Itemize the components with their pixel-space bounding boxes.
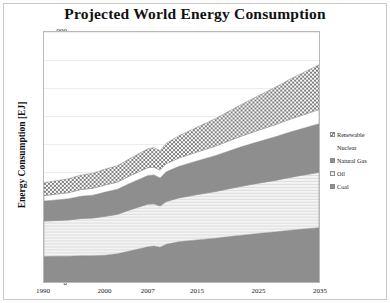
legend-label: Nuclear xyxy=(337,144,357,151)
legend-item-coal[interactable]: Coal xyxy=(330,180,386,193)
x-tick-label: 2000 xyxy=(83,287,127,295)
legend-swatch-icon xyxy=(330,132,335,137)
legend-item-renewable[interactable]: Renewable xyxy=(330,128,386,141)
chart-figure: Projected World Energy Consumption Energ… xyxy=(0,0,390,303)
x-tick-label: 1990 xyxy=(21,287,65,295)
legend-label: Oil xyxy=(337,170,345,177)
legend-item-nuclear[interactable]: Nuclear xyxy=(330,141,386,154)
stacked-area-series xyxy=(44,32,319,282)
legend-label: Renewable xyxy=(337,131,365,138)
chart-title: Projected World Energy Consumption xyxy=(0,5,390,23)
chart-legend: RenewableNuclearNatural GasOilCoal xyxy=(330,128,386,193)
legend-item-oil[interactable]: Oil xyxy=(330,167,386,180)
x-tick-label: 2025 xyxy=(236,287,280,295)
plot-area xyxy=(43,31,320,283)
legend-swatch-icon xyxy=(330,184,335,189)
legend-swatch-icon xyxy=(330,171,335,176)
x-tick-label: 2007 xyxy=(126,287,170,295)
legend-label: Coal xyxy=(337,183,349,190)
legend-label: Natural Gas xyxy=(337,157,367,164)
x-tick-label: 2015 xyxy=(175,287,219,295)
legend-swatch-icon xyxy=(330,158,335,163)
y-axis-label: Energy Consumption [EJ] xyxy=(17,75,27,235)
legend-item-natural-gas[interactable]: Natural Gas xyxy=(330,154,386,167)
x-tick-label: 2035 xyxy=(298,287,342,295)
